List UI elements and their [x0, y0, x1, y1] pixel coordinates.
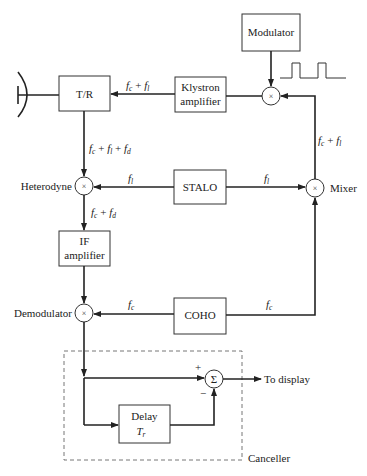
delay-to-sum-wire: [170, 389, 214, 425]
coho-label: COHO: [184, 309, 215, 321]
to-display-label: To display: [264, 373, 310, 385]
mixer-label: Mixer: [330, 182, 357, 194]
multiply-symbol: ×: [269, 92, 274, 101]
tr-switch-block: T/R: [59, 76, 110, 111]
signal-label-fl-left: fl: [128, 172, 133, 186]
multiply-symbol: ×: [82, 182, 87, 191]
modulator-block: Modulator: [242, 14, 300, 51]
signal-label-fc-fl-fd: fc + fl + fd: [89, 142, 131, 156]
demodulator-label: Demodulator: [14, 307, 72, 319]
stalo-label: STALO: [183, 181, 218, 193]
antenna-icon: [18, 72, 59, 117]
plus-sign: +: [195, 361, 201, 373]
delay-block: Delay Tr: [119, 405, 170, 443]
heterodyne-label: Heterodyne: [21, 180, 72, 192]
mti-radar-diagram: Modulator × Klystron amplifier T/R fc + …: [0, 0, 367, 476]
signal-label-fc-fl-right: fc + fl: [318, 134, 341, 148]
tr-label: T/R: [76, 88, 94, 100]
signal-label-fl-right: fl: [264, 172, 269, 186]
coho-block: COHO: [174, 298, 226, 334]
klystron-label-line1: Klystron: [181, 81, 220, 93]
stalo-block: STALO: [174, 170, 226, 204]
klystron-label-line2: amplifier: [180, 95, 221, 107]
summation-node: Σ: [205, 370, 223, 388]
minus-sign: −: [200, 387, 206, 399]
coho-to-mixer-wire: [226, 198, 315, 315]
demodulator: ×: [75, 304, 93, 322]
heterodyne-mixer: ×: [75, 177, 93, 195]
if-amplifier-block: IF amplifier: [59, 231, 110, 266]
pulse-train-icon: [280, 63, 346, 78]
sigma-symbol: Σ: [211, 373, 217, 385]
signal-label-fc-right: fc: [266, 298, 273, 312]
klystron-amplifier-block: Klystron amplifier: [175, 77, 226, 112]
if-label-line1: IF: [80, 235, 90, 247]
signal-label-fc-fl-top: fc + fl: [126, 79, 149, 93]
mixer: ×: [306, 179, 324, 197]
modulator-label: Modulator: [248, 26, 295, 38]
multiply-symbol: ×: [82, 309, 87, 318]
multiply-symbol: ×: [313, 184, 318, 193]
signal-label-fc-fd: fc + fd: [91, 206, 116, 220]
if-label-line2: amplifier: [64, 249, 105, 261]
mixer-to-multiplier-wire: [281, 96, 315, 179]
transmit-multiplier: ×: [262, 87, 280, 105]
signal-label-fc-left: fc: [128, 298, 135, 312]
delay-label: Delay: [131, 410, 158, 422]
canceller-label: Canceller: [248, 452, 290, 464]
